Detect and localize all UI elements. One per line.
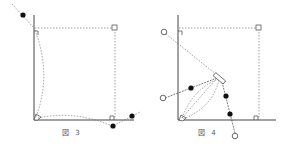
right-angle-marker (254, 116, 258, 120)
black-dot (129, 113, 134, 118)
figure-3 (12, 4, 140, 129)
right-angle-marker (178, 31, 182, 35)
figure-4-caption: 図 4 (198, 127, 218, 137)
dashed-line (182, 78, 217, 118)
corner-square-marker (112, 25, 117, 30)
black-dot (110, 123, 115, 128)
right-angle-marker (110, 116, 114, 120)
dashed-arc (35, 30, 44, 117)
dashed-guide-line (222, 82, 235, 133)
black-dot (223, 93, 228, 98)
diagram-canvas (0, 0, 288, 148)
dashed-arc (38, 112, 140, 126)
dashed-guide-line (166, 34, 217, 75)
hollow-circle (232, 133, 238, 139)
hollow-circle (161, 29, 167, 35)
dashed-arc (183, 80, 219, 119)
origin-marker (34, 114, 41, 120)
black-dot (227, 111, 232, 116)
black-dot (20, 12, 25, 17)
tilted-mirror-block (213, 73, 226, 84)
figure-3-caption: 図 3 (62, 127, 82, 137)
hollow-circle (160, 95, 166, 101)
black-dot (188, 85, 193, 90)
figure-4 (160, 15, 276, 139)
corner-square-marker (256, 25, 261, 30)
